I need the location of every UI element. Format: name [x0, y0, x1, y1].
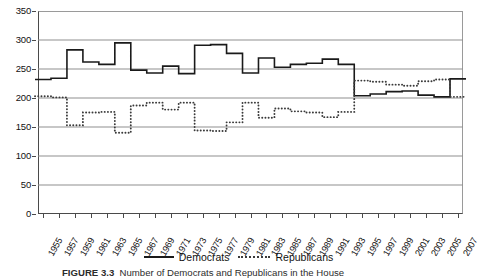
- x-axis-tick-mark: [362, 214, 363, 218]
- legend-label-republicans: Republicans: [275, 252, 333, 263]
- x-axis-tick-mark: [187, 214, 188, 218]
- legend-swatch-solid-line: [144, 256, 174, 258]
- x-axis-tick-mark: [251, 214, 252, 218]
- y-axis-tick-mark: [32, 69, 36, 70]
- x-axis-tick-mark: [330, 214, 331, 218]
- x-axis-tick-mark: [107, 214, 108, 218]
- y-axis-tick-label: 100: [16, 151, 31, 161]
- x-axis-tick-mark: [59, 214, 60, 218]
- x-axis-tick-mark: [123, 214, 124, 218]
- x-axis-tick-mark: [298, 214, 299, 218]
- x-axis-tick-mark: [458, 214, 459, 218]
- x-axis-tick-mark: [266, 214, 267, 218]
- y-axis-tick-mark: [32, 156, 36, 157]
- figure-number: FIGURE 3.3: [62, 268, 114, 278]
- chart-legend: Democrats Republicans: [0, 250, 477, 264]
- x-axis-tick-mark: [171, 214, 172, 218]
- legend-item-republicans: Republicans: [238, 252, 333, 263]
- y-axis-tick-label: 250: [16, 64, 31, 74]
- y-axis-tick-label: 150: [16, 122, 31, 132]
- y-axis-tick-label: 0: [26, 209, 31, 219]
- y-axis-tick-mark: [32, 127, 36, 128]
- x-axis-tick-mark: [219, 214, 220, 218]
- x-axis-tick-mark: [282, 214, 283, 218]
- caption-text: Number of Democrats and Republicans in t…: [120, 268, 345, 278]
- x-axis-tick-mark: [426, 214, 427, 218]
- y-axis-tick-mark: [32, 98, 36, 99]
- series-line-republicans: [35, 79, 466, 132]
- x-axis-tick-mark: [346, 214, 347, 218]
- y-axis-tick-label: 300: [16, 35, 31, 45]
- x-axis-tick-mark: [75, 214, 76, 218]
- y-axis-tick-label: 350: [16, 6, 31, 16]
- x-axis-tick-mark: [139, 214, 140, 218]
- x-axis-tick-mark: [155, 214, 156, 218]
- figure-caption: FIGURE 3.3 Number of Democrats and Repub…: [62, 268, 462, 278]
- x-axis-tick-mark: [235, 214, 236, 218]
- series-line-democrats: [35, 43, 466, 97]
- x-axis-tick-mark: [43, 214, 44, 218]
- legend-item-democrats: Democrats: [144, 252, 230, 263]
- data-series-layer: [38, 11, 463, 214]
- legend-swatch-dotted-line: [238, 256, 270, 258]
- x-axis-tick-mark: [410, 214, 411, 218]
- y-axis-tick-mark: [32, 11, 36, 12]
- y-axis-tick-mark: [32, 214, 36, 215]
- plot-area: [38, 11, 463, 214]
- y-axis-tick-mark: [32, 185, 36, 186]
- y-axis: 050100150200250300350: [0, 11, 36, 214]
- x-axis-tick-mark: [91, 214, 92, 218]
- x-axis-tick-mark: [314, 214, 315, 218]
- x-axis-tick-mark: [442, 214, 443, 218]
- y-axis-tick-mark: [32, 40, 36, 41]
- y-axis-tick-label: 50: [21, 180, 31, 190]
- y-axis-tick-label: 200: [16, 93, 31, 103]
- x-axis-tick-mark: [203, 214, 204, 218]
- x-axis-tick-mark: [378, 214, 379, 218]
- x-axis-tick-mark: [394, 214, 395, 218]
- legend-label-democrats: Democrats: [179, 252, 230, 263]
